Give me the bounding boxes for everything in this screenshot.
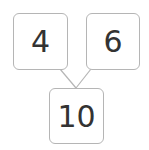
whole-value: 10 [57,99,95,134]
part-right-value: 6 [103,24,122,59]
part-right-box: 6 [86,13,140,70]
part-left-box: 4 [13,13,68,70]
part-left-value: 4 [31,24,50,59]
left-connector [60,69,76,88]
right-connector [76,69,91,88]
whole-box: 10 [49,88,104,144]
